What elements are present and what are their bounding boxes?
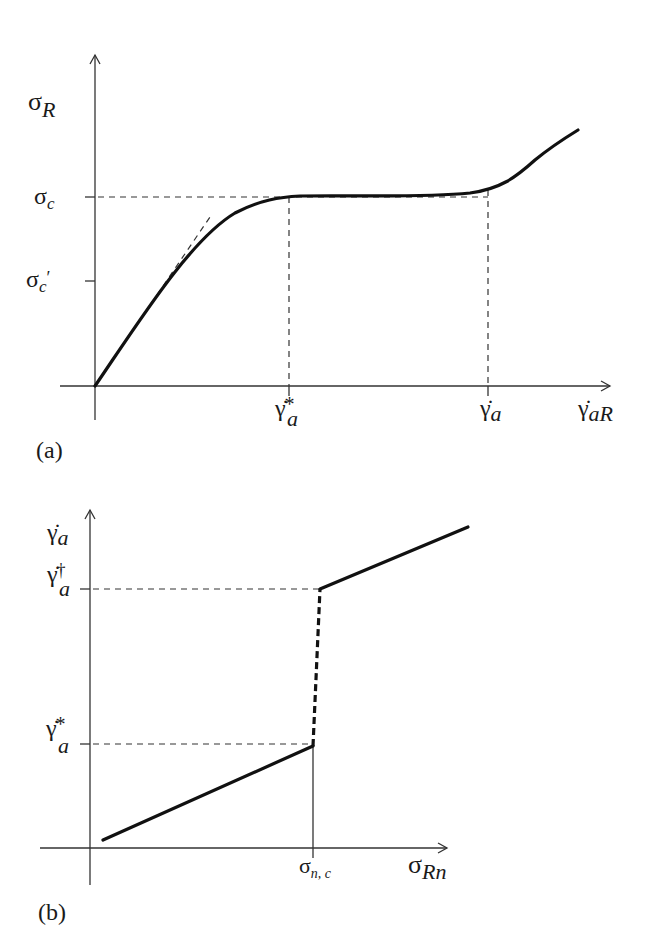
x-axis-label-b: σRn bbox=[408, 850, 446, 884]
x-axis-label-a: γ̇aR bbox=[577, 395, 614, 426]
panel-b: γ̇a γ̇† a γ̇* a σn, c σRn (b) bbox=[38, 510, 468, 925]
response-curve bbox=[95, 130, 578, 386]
figure: σR σc σc′ γ̇* a γ̇a γ̇aR (a) bbox=[0, 0, 645, 948]
y-axis-label-b: γ̇a bbox=[46, 519, 69, 550]
y-axis-label-a: σR bbox=[28, 87, 56, 122]
x-tick-label-gamma-a: γ̇a bbox=[479, 395, 502, 426]
y-tick-label-gamma-dagger-sub: a bbox=[59, 576, 70, 601]
y-tick-label-sigma-c-prime: σc′ bbox=[26, 266, 50, 296]
lower-branch bbox=[103, 746, 313, 840]
panel-a-tag: (a) bbox=[36, 437, 63, 463]
x-tick-label-sigma-nc: σn, c bbox=[299, 853, 332, 881]
jump-segment bbox=[313, 589, 320, 746]
panel-b-tag: (b) bbox=[38, 899, 66, 925]
y-tick-label-sigma-c: σc bbox=[34, 183, 55, 213]
panel-a: σR σc σc′ γ̇* a γ̇a γ̇aR (a) bbox=[26, 55, 614, 463]
x-tick-label-gamma-star-sub: a bbox=[287, 406, 298, 431]
y-tick-label-gamma-star-sub: a bbox=[58, 733, 69, 758]
upper-branch bbox=[320, 527, 468, 589]
